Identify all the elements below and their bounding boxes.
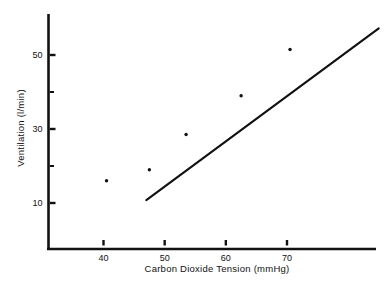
y-tick-label: 30: [32, 125, 42, 134]
x-tick-label: 40: [98, 254, 108, 263]
x-tick-label: 60: [221, 254, 231, 263]
x-axis-ticks: [104, 240, 288, 246]
data-point: [239, 94, 242, 97]
plot-area: [0, 0, 386, 286]
x-axis-title: Carbon Dioxide Tension (mmHg): [145, 263, 290, 274]
x-tick-label: 50: [160, 254, 170, 263]
y-tick-label: 50: [32, 51, 42, 60]
axis-spines: [47, 14, 376, 250]
y-axis-ticks-major: [50, 55, 56, 203]
data-point: [184, 133, 187, 136]
x-tick-label: 70: [282, 254, 292, 263]
data-point: [288, 48, 291, 51]
y-axis-title: Ventilation (l/min): [15, 89, 26, 167]
data-point: [105, 179, 108, 182]
chart-figure: 40506070 103050 Carbon Dioxide Tension (…: [0, 0, 386, 286]
regression-line: [146, 28, 378, 200]
fitted-line: [146, 28, 378, 200]
data-point: [148, 168, 151, 171]
y-tick-label: 10: [32, 199, 42, 208]
